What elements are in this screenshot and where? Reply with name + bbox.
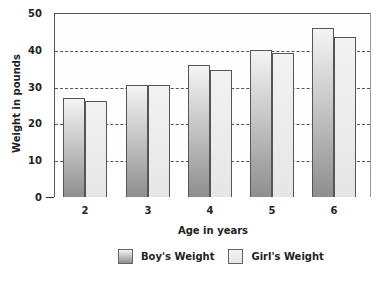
girl-bar-age-6 — [334, 37, 356, 197]
x-axis-title: Age in years — [0, 225, 378, 236]
x-tick-label: 6 — [324, 205, 344, 216]
legend-label-boy: Boy's Weight — [141, 251, 214, 262]
x-tick-label: 5 — [262, 205, 282, 216]
girl-bar-age-4 — [210, 70, 232, 197]
boy-bar-age-4 — [188, 65, 210, 197]
y-tick-label: 40 — [28, 44, 42, 55]
legend: Boy's Weight Girl's Weight — [118, 249, 338, 264]
y-tick-label: 20 — [28, 118, 42, 129]
legend-swatch-boy — [118, 249, 133, 264]
boy-bar-age-5 — [250, 50, 272, 197]
y-axis-title: Weight in pounds — [11, 54, 22, 154]
boy-bar-age-2 — [63, 98, 85, 197]
girl-bar-age-5 — [272, 53, 294, 197]
y-tick-label: 0 — [35, 192, 42, 203]
x-tick-label: 2 — [75, 205, 95, 216]
legend-item-boy: Boy's Weight — [118, 249, 214, 264]
y-tick-label: 50 — [28, 8, 42, 19]
boy-bar-age-6 — [312, 28, 334, 197]
legend-item-girl: Girl's Weight — [228, 249, 323, 264]
y-tick-label: 30 — [28, 81, 42, 92]
girl-bar-age-2 — [85, 101, 107, 197]
legend-swatch-girl — [228, 249, 243, 264]
y-tick-label: 10 — [28, 155, 42, 166]
legend-label-girl: Girl's Weight — [251, 251, 323, 262]
x-tick-label: 3 — [138, 205, 158, 216]
y-zero-tick — [46, 197, 54, 198]
girl-bar-age-3 — [148, 85, 170, 197]
boy-bar-age-3 — [126, 85, 148, 197]
x-tick-label: 4 — [200, 205, 220, 216]
